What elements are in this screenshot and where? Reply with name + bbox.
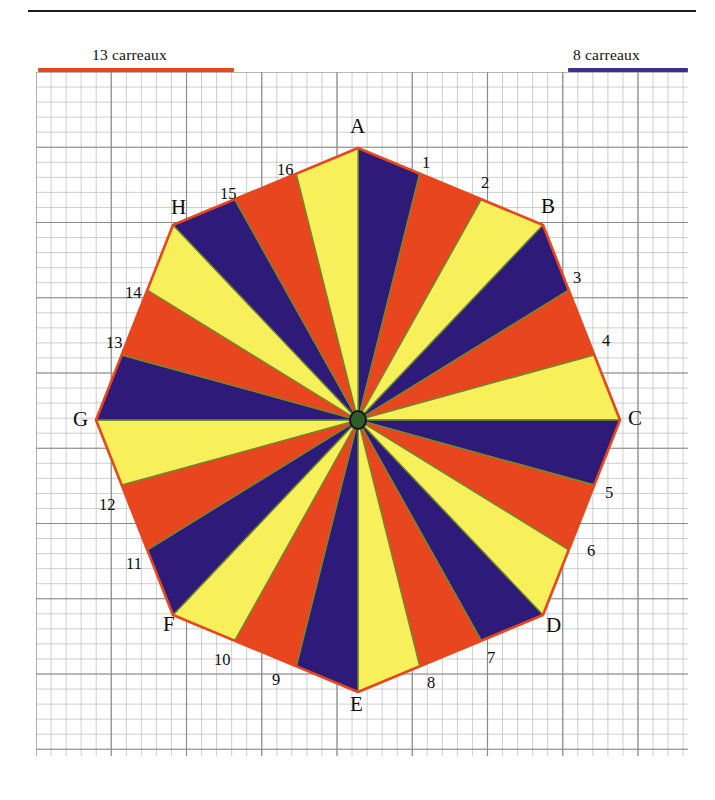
edge-number-3: 3 [573, 270, 581, 287]
vertex-label-d: D [546, 615, 561, 636]
header-rule [28, 10, 696, 12]
edge-number-6: 6 [587, 543, 595, 560]
edge-number-16: 16 [277, 162, 294, 179]
edge-number-8: 8 [427, 675, 435, 692]
edge-number-9: 9 [272, 672, 280, 689]
vertex-label-c: C [628, 408, 642, 429]
edge-number-11: 11 [126, 556, 142, 573]
edge-number-14: 14 [125, 285, 142, 302]
vertex-label-f: F [163, 614, 175, 635]
vertex-label-h: H [171, 197, 186, 218]
vertex-label-g: G [73, 409, 88, 430]
legend-left-label: 13 carreaux [92, 46, 167, 64]
figure-page: 13 carreaux 8 carreaux ABCDEFGH123456789… [0, 0, 715, 800]
edge-number-7: 7 [487, 650, 495, 667]
vertex-label-b: B [541, 196, 555, 217]
octagon-rosace-svg [36, 72, 688, 756]
edge-number-15: 15 [220, 186, 237, 203]
edge-number-10: 10 [214, 652, 231, 669]
vertex-label-e: E [350, 694, 363, 715]
edge-number-2: 2 [481, 175, 489, 192]
edge-number-13: 13 [106, 335, 123, 352]
edge-number-1: 1 [422, 155, 430, 172]
graph-paper [36, 72, 688, 756]
vertex-label-a: A [350, 116, 365, 137]
edge-number-5: 5 [605, 485, 613, 502]
legend-right-label: 8 carreaux [573, 46, 640, 64]
edge-number-4: 4 [602, 333, 610, 350]
edge-number-12: 12 [99, 497, 116, 514]
